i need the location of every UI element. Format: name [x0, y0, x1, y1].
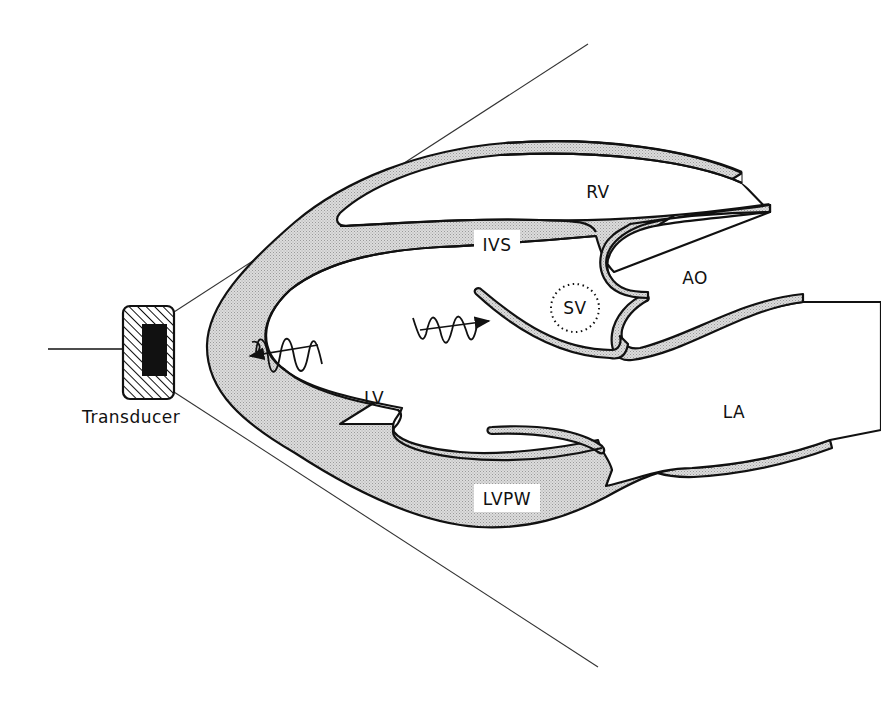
rv-label: RV — [586, 182, 610, 202]
lv-label: LV — [364, 388, 384, 408]
lvpw-label: LVPW — [483, 489, 531, 509]
echo-diagram: Transducer SV RV IVS AO LV LA LVPW — [0, 0, 881, 705]
sv-label: SV — [563, 298, 586, 318]
ao-right-open — [804, 210, 881, 300]
ivs-label: IVS — [483, 235, 512, 255]
transducer-crystal-icon — [142, 324, 167, 376]
ao-label: AO — [682, 268, 708, 288]
diagram-canvas: Transducer SV RV IVS AO LV LA LVPW — [0, 0, 881, 705]
la-label: LA — [723, 402, 746, 422]
transducer-label: Transducer — [81, 407, 180, 427]
